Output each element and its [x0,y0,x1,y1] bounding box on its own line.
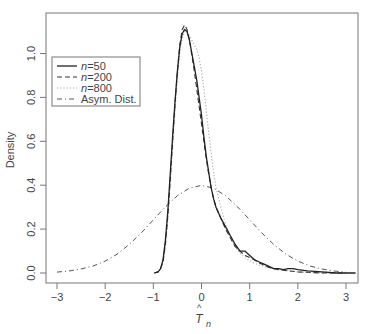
y-tick-label: 0.0 [25,265,37,280]
y-tick-label: 0.2 [25,221,37,236]
density-chart: −3−2−10123 0.00.20.40.60.81.0 Density ^ … [0,0,368,334]
plot-frame [46,13,358,283]
legend: n=50n=200n=800Asym. Dist. [52,57,140,106]
y-tick-label: 1.0 [25,46,37,61]
series-n-50 [154,29,355,273]
x-tick-label: −3 [51,291,64,303]
x-axis-label: ^ T n [195,303,211,329]
x-tick-label: 3 [343,291,349,303]
x-tick-label: 1 [247,291,253,303]
x-tick-label: −2 [99,291,112,303]
x-tick-label: −1 [147,291,160,303]
x-tick-label: 0 [198,291,204,303]
series-n-200 [154,25,346,273]
y-axis: 0.00.20.40.60.81.0 [25,46,46,281]
x-axis-label-sub: n [206,319,211,329]
x-axis-label-base: T [195,312,204,326]
series-n-800 [154,32,346,274]
series-asym-dist- [57,185,346,272]
x-axis: −3−2−10123 [51,283,349,303]
y-tick-label: 0.6 [25,134,37,149]
y-tick-label: 0.4 [25,178,37,193]
y-axis-label: Density [4,131,16,168]
y-tick-label: 0.8 [25,90,37,105]
x-tick-label: 2 [295,291,301,303]
legend-label: Asym. Dist. [81,93,137,105]
